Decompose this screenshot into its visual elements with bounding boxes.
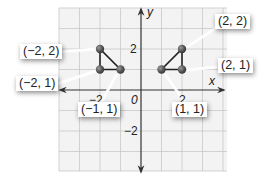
point-neg2-1 [96,65,104,73]
point-2-2 [178,45,186,53]
origin-label: 0 [131,94,138,106]
x-axis-label: x [209,75,215,87]
label-point-neg2-2: (−2, 2) [20,44,62,59]
label-point-neg2-1: (−2, 1) [16,76,58,91]
point-2-1 [178,65,186,73]
point-1-1 [157,65,165,73]
y-axis-label: y [147,6,153,18]
label-point-2-1: (2, 1) [218,58,253,73]
y-tick-neg2: −2 [124,125,138,137]
coordinate-plane-diagram: y x −2 2 0 2 −2 (−2, 2) (−2, 1) (−1, 1) … [0,0,265,179]
y-tick-2: 2 [130,43,137,55]
label-point-neg1-1: (−1, 1) [78,102,120,117]
label-point-1-1: (1, 1) [172,102,207,117]
label-point-2-2: (2, 2) [215,14,250,29]
point-neg2-2 [96,45,104,53]
point-neg1-1 [116,65,124,73]
